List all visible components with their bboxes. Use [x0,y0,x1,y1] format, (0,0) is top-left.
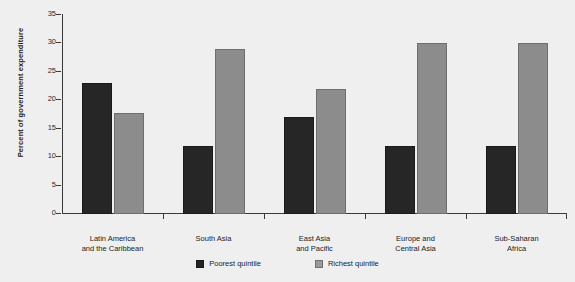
category-label-line: South Asia [163,234,264,244]
bar-richest [114,113,144,214]
legend-item[interactable]: Poorest quintile [196,259,261,268]
clipped-title-strip [0,0,575,8]
x-axis-category-label: Europe andCentral Asia [365,234,466,254]
bar-poorest [82,83,112,214]
bar-poorest [385,146,415,214]
x-axis-tick [365,214,366,219]
category-label-line: and the Caribbean [62,244,163,254]
y-axis-tick [56,185,61,186]
bar-richest [215,49,245,214]
y-axis-tick-label: 0 [38,208,56,217]
y-axis-tick-label: 10 [38,151,56,160]
y-axis-tick [56,42,61,43]
y-axis-tick-label: 20 [38,94,56,103]
bar-poorest [486,146,516,214]
y-axis-tick [56,71,61,72]
category-label-line: Central Asia [365,244,466,254]
bar-richest [518,43,548,214]
x-axis-tick [566,214,567,219]
bar-richest [316,89,346,214]
category-label-line: Europe and [365,234,466,244]
y-axis-tick [56,14,61,15]
x-axis-tick [466,214,467,219]
x-axis-tick [264,214,265,219]
y-axis-tick [56,213,61,214]
chart-legend: Poorest quintileRichest quintile [0,259,575,268]
category-label-line: Sub-Saharan [466,234,567,244]
x-axis-category-label: South Asia [163,234,264,244]
x-axis-tick [163,214,164,219]
category-label-line: East Asia [264,234,365,244]
legend-label: Richest quintile [328,259,379,268]
y-axis-line [62,14,63,214]
x-axis-category-label: Sub-SaharanAfrica [466,234,567,254]
legend-swatch-poorest [196,260,204,268]
plot-area: 05101520253035 Latin Americaand the Cari… [62,14,567,214]
y-axis-tick [56,99,61,100]
y-axis-tick [56,128,61,129]
legend-item[interactable]: Richest quintile [315,259,379,268]
x-axis-category-label: Latin Americaand the Caribbean [62,234,163,254]
y-axis-tick-label: 30 [38,37,56,46]
y-axis-tick-label: 35 [38,9,56,18]
category-label-line: and Pacific [264,244,365,254]
legend-swatch-richest [315,260,323,268]
category-label-line: Africa [466,244,567,254]
bar-poorest [284,117,314,214]
y-axis-tick-label: 5 [38,180,56,189]
legend-label: Poorest quintile [209,259,261,268]
bar-richest [417,43,447,214]
y-axis-tick-label: 25 [38,66,56,75]
y-axis-tick-label: 15 [38,123,56,132]
x-axis-category-label: East Asiaand Pacific [264,234,365,254]
y-axis-title: Percent of government expenditure [16,0,25,188]
bar-chart: Percent of government expenditure 051015… [0,0,575,282]
category-label-line: Latin America [62,234,163,244]
bar-poorest [183,146,213,214]
y-axis-tick [56,156,61,157]
